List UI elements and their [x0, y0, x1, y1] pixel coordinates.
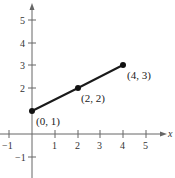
y-tick-label: −1 — [15, 152, 26, 163]
x-tick-label: 4 — [120, 140, 125, 151]
point-label: (4, 3) — [127, 69, 151, 82]
y-axis: −1 2 3 4 5 — [15, 3, 36, 178]
y-tick-label: 3 — [20, 60, 25, 71]
data-point — [29, 108, 35, 114]
x-axis: x −1 1 2 3 4 5 — [0, 128, 173, 151]
data-series: (0, 1) (2, 2) (4, 3) — [29, 62, 151, 128]
point-label: (0, 1) — [36, 115, 60, 128]
x-tick-label: −1 — [2, 140, 13, 151]
x-tick-label: 5 — [143, 140, 148, 151]
y-tick-label: 2 — [20, 83, 25, 94]
x-tick-label: 2 — [75, 140, 80, 151]
point-label: (2, 2) — [81, 92, 105, 105]
line-chart: x −1 1 2 3 4 5 −1 2 3 4 5 (0, 1) — [0, 0, 175, 178]
x-tick-label: 3 — [97, 140, 102, 151]
x-tick-label: 1 — [52, 140, 57, 151]
x-axis-label: x — [167, 128, 173, 139]
y-axis-arrow-icon — [30, 3, 35, 10]
data-point — [75, 85, 81, 91]
y-tick-label: 5 — [20, 15, 25, 26]
x-axis-arrow-icon — [160, 132, 167, 137]
data-point — [120, 62, 126, 68]
y-tick-label: 4 — [20, 38, 25, 49]
